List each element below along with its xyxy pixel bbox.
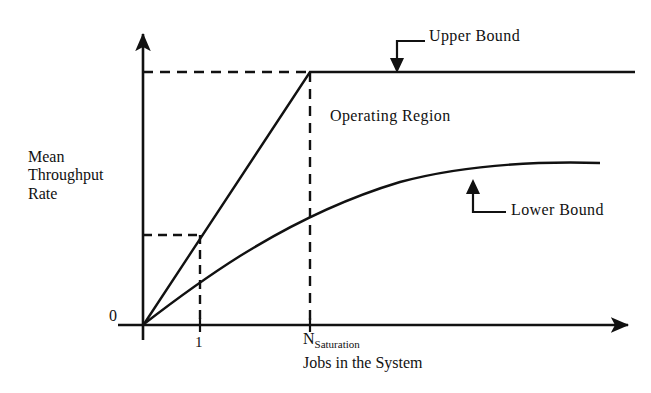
- y-axis-title-line-2: Throughput: [28, 166, 104, 184]
- x-tick-label-nsaturation-base: N: [303, 330, 315, 347]
- x-tick-label-nsaturation-subscript: Saturation: [315, 338, 360, 350]
- y-axis-title-line-1: Mean: [28, 148, 104, 166]
- operating-region-label: Operating Region: [330, 107, 451, 125]
- upper-bound-arrow-icon: [390, 58, 404, 73]
- lower-bound-arrow-icon: [466, 179, 480, 194]
- x-tick-label-one: 1: [195, 334, 203, 351]
- x-axis-title: Jobs in the System: [303, 354, 423, 372]
- upper-bound-label: Upper Bound: [429, 27, 520, 45]
- upper-bound-leader: [390, 41, 425, 73]
- throughput-bounds-figure: Mean Throughput Rate 0 1 NSaturation Job…: [0, 0, 651, 393]
- lower-bound-label: Lower Bound: [511, 201, 604, 219]
- lower-bound-leader: [466, 179, 506, 212]
- y-axis-title-line-3: Rate: [28, 185, 104, 203]
- x-tick-label-nsaturation: NSaturation: [303, 330, 360, 348]
- origin-label: 0: [109, 307, 117, 325]
- y-axis-title: Mean Throughput Rate: [28, 148, 104, 203]
- lower-bound-curve: [144, 163, 600, 324]
